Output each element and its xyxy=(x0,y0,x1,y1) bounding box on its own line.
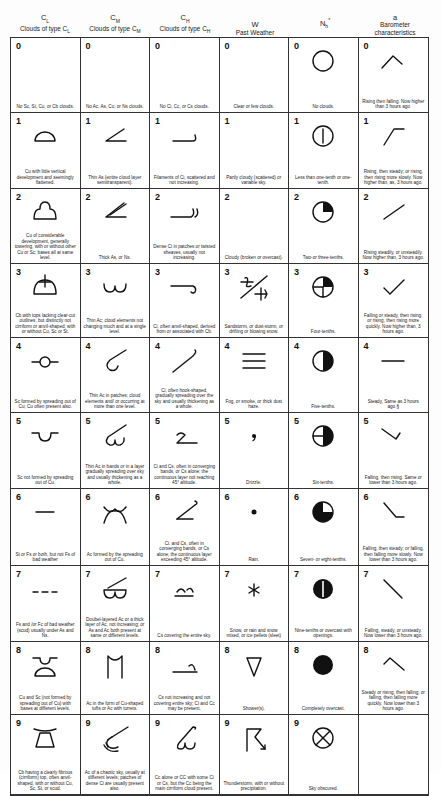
cell-cm-4: 4Thin Ac in patches; cloud elements and/… xyxy=(81,338,151,413)
header-ch: CH Clouds of type CH xyxy=(150,2,220,38)
code-table: 0No Sc, St, Cu, or Cb clouds.0No Ac, As,… xyxy=(10,37,429,796)
cell-a-6: 6Falling, then steady; or falling, then … xyxy=(359,489,429,566)
cell-nh-1: 1Less than one-tenth or one-tenth. xyxy=(289,113,359,189)
cell-cm-1: 1Thin As (entire cloud layer semitranspa… xyxy=(81,113,151,189)
code-number: 3 xyxy=(155,267,160,277)
code-description: No Sc, St, Cu, or Cb clouds. xyxy=(14,104,77,110)
code-description: Completely overcast. xyxy=(292,706,355,712)
code-number: 0 xyxy=(16,41,21,51)
code-description: Five-tenths. xyxy=(292,404,355,410)
cell-w-0: 0Clear or few clouds. xyxy=(220,38,290,113)
code-description: Snow, or rain and snow mixed, or ice pel… xyxy=(223,628,286,639)
cell-a-4: 4Steady, Same as 3 hours ago.§ xyxy=(359,338,429,413)
cell-w-7: 7Snow, or rain and snow mixed, or ice pe… xyxy=(220,566,290,642)
code-description: Cc alone or CC with some Ci or Cs, but t… xyxy=(153,775,216,792)
ci-filaments-icon xyxy=(167,121,201,151)
code-description: No Ac, As, Cu, or Ns clouds. xyxy=(84,104,147,110)
code-description: Clear or few clouds. xyxy=(223,104,286,110)
code-description: Shower(s). xyxy=(223,706,286,712)
cell-cl-0: 0No Sc, St, Cu, or Cb clouds. xyxy=(11,38,81,113)
cell-ch-3: 3Ci, often anvil-shaped, derived from or… xyxy=(150,264,220,338)
cell-ch-7: 7Cs covering the entire sky. xyxy=(150,566,220,642)
cell-w-4: 4Fog, or smoke, or thick dust haze. xyxy=(220,338,290,413)
code-number: 4 xyxy=(294,341,299,351)
cell-cm-7: 7Doubel-layered Ac or a thick layer of A… xyxy=(81,566,151,642)
code-number: 2 xyxy=(225,192,230,202)
code-description: Cs covering the entire sky. xyxy=(153,633,216,639)
cell-nh-6: 6Seven- or eight-tenths. xyxy=(289,489,359,566)
code-number: 1 xyxy=(225,116,230,126)
cell-ch-5: 5Ci and Cs, often in converging bands, o… xyxy=(150,413,220,489)
header-a: a Barometer characteristics xyxy=(360,2,430,38)
sc-from-cu-icon xyxy=(28,346,62,376)
code-description: Cu and Sc (not formed by spreading out o… xyxy=(14,695,77,712)
cell-cl-5: 5Sc not formed by spreading out of Cu. xyxy=(11,413,81,489)
code-description: Ci, often anvil-shaped, derived from or … xyxy=(153,324,216,335)
falling-then-rising-lower-icon xyxy=(376,421,410,451)
header-nh: Nh* xyxy=(290,2,360,38)
cell-w-3: 3Sandstorm, or dust-storm, or drifting o… xyxy=(220,264,290,338)
code-description: Doubel-layered Ac or a thick layer of Ac… xyxy=(84,617,147,639)
cell-cm-0: 0No Ac, As, Cu, or Ns clouds. xyxy=(81,38,151,113)
code-description: No Ci, Cc, or Cs clouds. xyxy=(153,104,216,110)
code-description: Sky obscured. xyxy=(292,786,355,792)
code-description: Seven- or eight-tenths. xyxy=(292,557,355,563)
code-number: 9 xyxy=(294,718,299,728)
cell-cm-3: 3Thin Ac; cloud elements not changing mu… xyxy=(81,264,151,338)
cell-cm-9: 9Ac of a chaotic sky, usually at differe… xyxy=(81,715,151,795)
code-description: Six-tenths. xyxy=(292,480,355,486)
code-description: Less than one-tenth or one-tenth. xyxy=(292,175,355,186)
cell-nh-4: 4Five-tenths. xyxy=(289,338,359,413)
cell-cl-3: 3Cb with tops lacking clear-cut outlines… xyxy=(11,264,81,338)
thick-as-icon xyxy=(98,197,132,227)
cell-nh-9: 9Sky obscured. xyxy=(289,715,359,795)
code-number: 8 xyxy=(16,645,21,655)
circle-four-tenths-icon xyxy=(306,272,340,302)
code-description: Cb with tops lacking clear-cut outlines,… xyxy=(14,313,77,335)
cell-cl-6: 6St or Fs or both, but not Fs of bad wea… xyxy=(11,489,81,566)
cell-w-1: 1Partly cloudy (scattered) or variable s… xyxy=(220,113,290,189)
code-description: Cb having a clearly fibrous (cirriform) … xyxy=(14,770,77,792)
code-description: Rising then falling. Now higher than 3 h… xyxy=(362,99,426,110)
circle-half-icon xyxy=(306,346,340,376)
code-number: 5 xyxy=(155,416,160,426)
code-description: Ci and Cs, often in converging bands, or… xyxy=(153,464,216,486)
code-number: 7 xyxy=(155,569,160,579)
ci-cs-bands-low-icon xyxy=(167,421,201,451)
code-number: 4 xyxy=(225,341,230,351)
falling-then-rising-icon xyxy=(376,272,410,302)
showers-icon xyxy=(237,650,271,680)
rising-steadily-icon xyxy=(376,197,410,227)
column-headers: CL Clouds of type CL CM Clouds of type C… xyxy=(10,2,430,38)
ci-cs-bands-high-icon xyxy=(167,497,201,527)
code-description: Nine-tenths or overcast with openings. xyxy=(292,628,355,639)
code-number: 1 xyxy=(364,116,369,126)
code-number: 5 xyxy=(16,416,21,426)
cell-a-8: 8Steady or rising, then falling; or fall… xyxy=(359,642,429,715)
code-number: 1 xyxy=(155,116,160,126)
code-number: 8 xyxy=(364,645,369,655)
cell-nh-0: 0No clouds. xyxy=(289,38,359,113)
cell-a-9 xyxy=(359,715,429,795)
circle-seven-tenths-icon xyxy=(306,497,340,527)
code-number: 9 xyxy=(86,718,91,728)
code-number: 3 xyxy=(86,267,91,277)
header-cl: CL Clouds of type CL xyxy=(10,2,80,38)
code-description: Sc not formed by spreading out of Cu. xyxy=(14,475,77,486)
cell-cm-6: 6Ac formed by the spreading out of Cu. xyxy=(81,489,151,566)
code-description: Thin Ac in patches; cloud elements and/ … xyxy=(84,393,147,410)
code-number: 1 xyxy=(16,116,21,126)
code-description: Two-or three-tenths. xyxy=(292,255,355,261)
cell-ch-9: 9Cc alone or CC with some Ci or Cs, but … xyxy=(150,715,220,795)
code-description: No clouds. xyxy=(292,104,355,110)
code-number: 0 xyxy=(155,41,160,51)
code-description: Thick As, or Ns. xyxy=(84,255,147,261)
cell-cl-9: 9Cb having a clearly fibrous (cirriform)… xyxy=(11,715,81,795)
circle-quarter-icon xyxy=(306,197,340,227)
code-description: St or Fs or both, but not Fs of bad weat… xyxy=(14,552,77,563)
code-number: 4 xyxy=(364,341,369,351)
code-number: 2 xyxy=(364,192,369,202)
ac-turrets-icon xyxy=(98,650,132,680)
cc-alone-icon xyxy=(167,723,201,753)
code-description: Rising, then steady; or rising, then ris… xyxy=(362,169,426,186)
